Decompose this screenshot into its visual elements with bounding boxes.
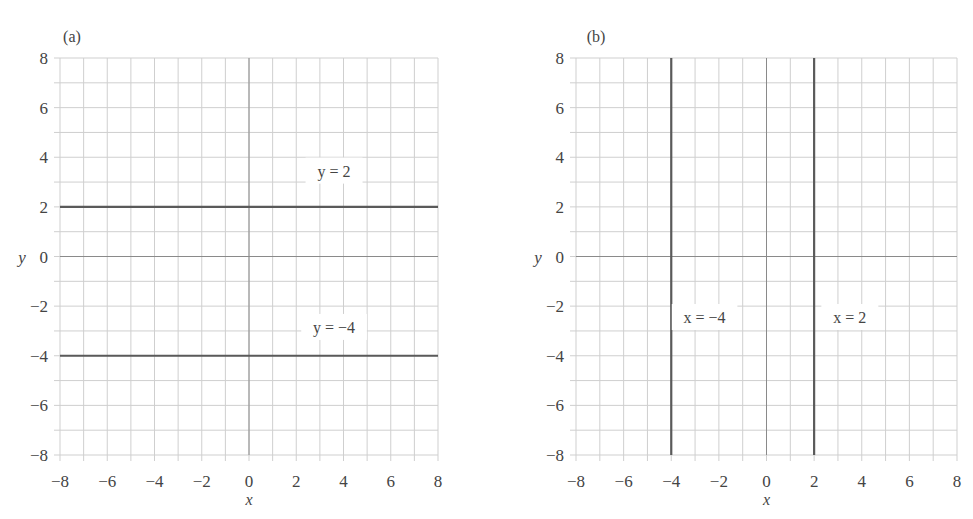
x-tick-label: −2 <box>710 472 728 491</box>
x-tick-label: −2 <box>193 472 211 491</box>
y-tick-label: −4 <box>30 347 49 366</box>
panel-label: (b) <box>587 28 606 46</box>
x-axis-label: x <box>244 491 252 508</box>
x-tick-label: −6 <box>615 472 633 491</box>
y-tick-label: 8 <box>556 49 565 68</box>
x-tick-label: −4 <box>662 472 681 491</box>
y-tick-label: 6 <box>40 99 49 118</box>
y-tick-label: 0 <box>40 248 49 267</box>
grid <box>570 58 957 461</box>
figure: y = 2y = −486420−2−4−6−8−8−6−4−202468xy(… <box>0 0 973 519</box>
y-tick-label: −6 <box>30 396 48 415</box>
x-tick-label: −8 <box>51 472 69 491</box>
panel-b: x = −4x = 286420−2−4−6−8−8−6−4−202468xy(… <box>532 28 961 508</box>
y-tick-label: 4 <box>40 148 49 167</box>
line-annotation: x = 2 <box>833 309 866 326</box>
x-tick-label: 2 <box>292 472 301 491</box>
x-tick-label: 8 <box>434 472 443 491</box>
y-tick-label: −6 <box>546 396 564 415</box>
y-tick-label: 6 <box>556 99 565 118</box>
y-tick-label: 0 <box>556 248 565 267</box>
x-tick-label: −6 <box>98 472 116 491</box>
x-tick-label: 0 <box>245 472 254 491</box>
y-tick-label: −4 <box>546 347 565 366</box>
x-tick-label: 4 <box>339 472 348 491</box>
y-tick-label: −8 <box>546 446 564 465</box>
x-axis-label: x <box>762 491 770 508</box>
x-tick-label: −8 <box>567 472 585 491</box>
y-tick-label: −2 <box>30 297 48 316</box>
y-tick-label: 2 <box>40 198 49 217</box>
y-tick-label: 4 <box>556 148 565 167</box>
line-annotation: y = −4 <box>313 319 355 337</box>
x-tick-label: 6 <box>387 472 396 491</box>
x-tick-label: 6 <box>905 472 914 491</box>
x-tick-label: 0 <box>762 472 771 491</box>
x-tick-label: 2 <box>810 472 819 491</box>
x-tick-label: −4 <box>145 472 164 491</box>
x-tick-label: 8 <box>953 472 962 491</box>
y-tick-label: −2 <box>546 297 564 316</box>
y-axis-label: y <box>16 248 26 267</box>
panel-label: (a) <box>63 28 81 46</box>
line-annotation: y = 2 <box>318 163 351 181</box>
x-tick-label: 4 <box>858 472 867 491</box>
panel-a: y = 2y = −486420−2−4−6−8−8−6−4−202468xy(… <box>16 28 442 508</box>
grid <box>54 58 438 461</box>
y-tick-label: 2 <box>556 198 565 217</box>
y-tick-label: −8 <box>30 446 48 465</box>
line-annotation: x = −4 <box>684 309 726 326</box>
y-tick-label: 8 <box>40 49 49 68</box>
y-axis-label: y <box>532 248 542 267</box>
